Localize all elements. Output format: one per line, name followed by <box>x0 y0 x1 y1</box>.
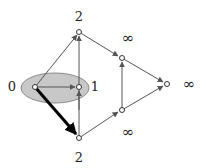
graph-diagram: 2 0 1 2 ∞ ∞ ∞ <box>0 0 206 168</box>
label-node-a: 1 <box>91 79 99 94</box>
node-e <box>165 82 170 87</box>
label-node-s: 0 <box>8 79 16 94</box>
node-b <box>77 136 82 141</box>
label-node-b: 2 <box>75 150 83 165</box>
edge-b-d <box>79 112 118 138</box>
edge-t-c <box>79 32 118 56</box>
label-node-t: 2 <box>75 9 83 24</box>
edge-d-e <box>122 86 163 110</box>
label-node-c: ∞ <box>122 29 135 47</box>
node-d <box>120 108 125 113</box>
label-node-d: ∞ <box>122 123 135 141</box>
node-t <box>77 30 82 35</box>
node-s <box>33 85 38 90</box>
edge-c-e <box>122 58 163 82</box>
node-c <box>120 56 125 61</box>
label-node-e: ∞ <box>183 75 196 93</box>
node-a <box>77 85 82 90</box>
